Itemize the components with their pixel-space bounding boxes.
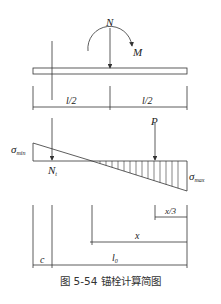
label-c: c bbox=[40, 254, 45, 265]
label-l0: l0 bbox=[112, 252, 118, 264]
label-x: x bbox=[134, 230, 140, 241]
label-N: N bbox=[105, 16, 114, 28]
label-half-left: l/2 bbox=[66, 95, 77, 106]
figure-caption: 图 5-54 锚栓计算简图 bbox=[0, 273, 221, 288]
label-P: P bbox=[150, 115, 158, 127]
base-plate bbox=[33, 68, 187, 74]
label-Nt: Nt bbox=[47, 164, 57, 177]
anchor-bolt-diagram: N M l/2 l/2 P σmin σmax Nt x/3 x l0 c bbox=[0, 0, 221, 304]
label-sigma-min: σmin bbox=[11, 143, 25, 156]
label-x-third: x/3 bbox=[164, 206, 176, 216]
label-sigma-max: σmax bbox=[189, 170, 205, 183]
label-M: M bbox=[132, 46, 143, 58]
label-half-right: l/2 bbox=[142, 95, 153, 106]
